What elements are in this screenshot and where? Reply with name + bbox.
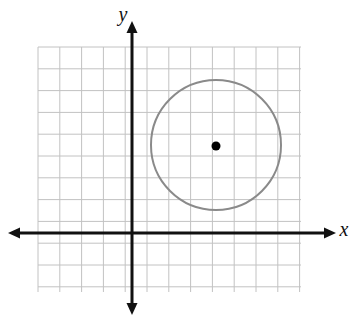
x-axis-label: x [339, 218, 349, 240]
circle-center-point [212, 142, 221, 151]
figure-background [0, 0, 359, 327]
y-axis-label: y [117, 3, 128, 26]
plotted-points-group [212, 142, 221, 151]
coordinate-plane-figure: y x [0, 0, 359, 327]
figure-root: y x [0, 0, 359, 327]
